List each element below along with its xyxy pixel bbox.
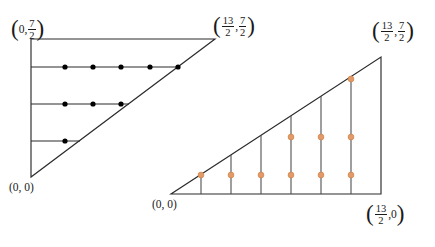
fraction-thirteen-halves: 132 xyxy=(374,203,389,227)
right-lattice-dot xyxy=(228,172,234,178)
denominator: 2 xyxy=(239,27,246,39)
right-strip-2-dots xyxy=(228,172,234,178)
left-lattice-dot xyxy=(175,64,180,69)
left-lattice-dot xyxy=(62,101,67,106)
denominator: 2 xyxy=(222,27,235,39)
left-lattice-dot xyxy=(118,64,123,69)
left-triangle-top-right-label: (132,72) xyxy=(213,15,255,39)
paren-close: ) xyxy=(247,13,255,38)
left-triangle-top-left-label: (0,72) xyxy=(11,18,44,42)
numerator: 13 xyxy=(222,15,235,27)
fraction-seven-halves: 72 xyxy=(238,15,247,39)
denominator: 2 xyxy=(28,30,35,42)
numerator: 13 xyxy=(375,203,388,215)
numerator: 7 xyxy=(28,18,35,30)
denominator: 2 xyxy=(398,32,405,44)
numerator: 7 xyxy=(239,15,246,27)
left-triangle-origin-label: (0, 0) xyxy=(9,181,34,193)
numerator: 13 xyxy=(381,20,394,32)
paren-open: ( xyxy=(372,18,380,43)
paren-open: ( xyxy=(11,16,19,41)
right-triangle-origin-label: (0, 0) xyxy=(152,198,177,210)
y-value: 0 xyxy=(391,208,397,220)
right-lattice-dot xyxy=(288,134,294,140)
right-lattice-dot xyxy=(288,172,294,178)
paren-open: ( xyxy=(213,13,221,38)
paren-close: ) xyxy=(397,201,405,226)
left-lattice-dot xyxy=(118,101,123,106)
left-lattice-dot xyxy=(62,138,67,143)
right-triangle-bottom-right-label: (132,0) xyxy=(366,203,404,227)
left-triangle-outline xyxy=(31,39,215,177)
paren-open: ( xyxy=(366,201,374,226)
right-triangle-group xyxy=(171,57,381,194)
right-strip-1-dots xyxy=(198,172,204,178)
left-lattice-dot xyxy=(147,64,152,69)
right-lattice-dot xyxy=(198,172,204,178)
right-lattice-dot xyxy=(318,134,324,140)
fraction-seven-halves: 72 xyxy=(397,20,406,44)
right-lattice-dot xyxy=(348,172,354,178)
right-lattice-dot xyxy=(258,172,264,178)
right-strip-3-dots xyxy=(258,172,264,178)
right-lattice-dot xyxy=(348,76,354,82)
fraction-thirteen-halves: 132 xyxy=(380,20,395,44)
denominator: 2 xyxy=(375,215,388,227)
left-lattice-dot xyxy=(62,64,67,69)
left-strip-3-dots xyxy=(62,138,67,143)
fraction-seven-halves: 72 xyxy=(27,18,36,42)
right-lattice-dot xyxy=(348,134,354,140)
figure-canvas: (0,72) (132,72) (0, 0) (132,72) (0, 0) (… xyxy=(0,0,435,247)
fraction-thirteen-halves: 132 xyxy=(221,15,236,39)
right-triangle-top-right-label: (132,72) xyxy=(372,20,414,44)
left-lattice-dot xyxy=(90,64,95,69)
denominator: 2 xyxy=(381,32,394,44)
left-triangle-group xyxy=(31,39,215,177)
numerator: 7 xyxy=(398,20,405,32)
right-lattice-dot xyxy=(318,172,324,178)
left-lattice-dot xyxy=(90,101,95,106)
paren-close: ) xyxy=(406,18,414,43)
paren-close: ) xyxy=(37,16,45,41)
